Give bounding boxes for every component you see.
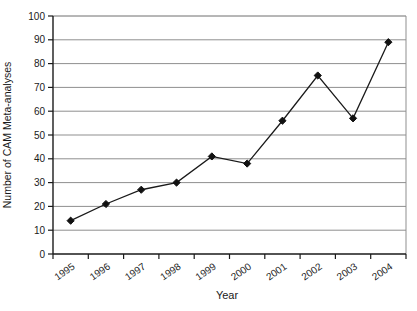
y-axis-title: Number of CAM Meta-analyses bbox=[1, 62, 13, 208]
y-tick-label: 30 bbox=[34, 177, 46, 188]
data-series bbox=[67, 39, 392, 225]
y-tick-label: 10 bbox=[34, 225, 46, 236]
x-tick-label: 1998 bbox=[158, 260, 183, 282]
axis-ticks bbox=[48, 16, 406, 259]
y-tick-label: 60 bbox=[34, 106, 46, 117]
chart-svg: 0102030405060708090100199519961997199819… bbox=[0, 0, 417, 311]
x-tick-label: 2001 bbox=[264, 260, 289, 282]
chart: 0102030405060708090100199519961997199819… bbox=[0, 0, 417, 311]
y-tick-label: 100 bbox=[28, 11, 45, 22]
y-tick-label: 0 bbox=[39, 249, 45, 260]
y-tick-label: 80 bbox=[34, 58, 46, 69]
data-line bbox=[71, 42, 389, 221]
x-tick-label: 2002 bbox=[299, 260, 324, 282]
y-tick-label: 90 bbox=[34, 34, 46, 45]
x-tick-label: 2003 bbox=[335, 260, 360, 282]
y-tick-label: 70 bbox=[34, 82, 46, 93]
y-tick-label: 20 bbox=[34, 201, 46, 212]
y-tick-label: 40 bbox=[34, 153, 46, 164]
x-tick-label: 2004 bbox=[370, 260, 395, 282]
data-point-marker bbox=[67, 217, 74, 224]
x-tick-label: 2000 bbox=[229, 260, 254, 282]
tick-labels: 0102030405060708090100199519961997199819… bbox=[28, 11, 395, 283]
x-axis-title: Year bbox=[216, 289, 239, 301]
x-tick-label: 1996 bbox=[88, 260, 113, 282]
x-tick-label: 1999 bbox=[193, 260, 218, 282]
x-tick-label: 1995 bbox=[52, 260, 77, 282]
x-tick-label: 1997 bbox=[123, 260, 148, 282]
y-tick-label: 50 bbox=[34, 130, 46, 141]
data-point-marker bbox=[138, 186, 145, 193]
